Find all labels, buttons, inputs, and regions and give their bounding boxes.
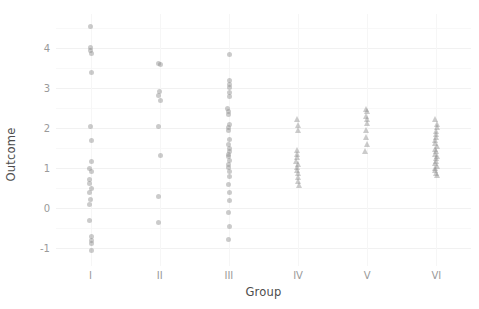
x-axis-tick-label: IV bbox=[278, 270, 318, 281]
data-point bbox=[89, 51, 94, 56]
strip-plot-figure: Outcome 43210-1 IIIIIIIVVVI Group bbox=[0, 0, 479, 309]
data-point bbox=[158, 98, 163, 103]
gridline-minor bbox=[56, 108, 471, 109]
data-point bbox=[434, 172, 440, 178]
data-point bbox=[227, 190, 232, 195]
gridline-minor bbox=[56, 228, 471, 229]
data-point bbox=[156, 124, 161, 129]
y-axis-tick-label: 1 bbox=[20, 163, 50, 174]
data-point bbox=[227, 224, 232, 229]
data-point bbox=[158, 153, 163, 158]
x-axis-tick-label: V bbox=[347, 270, 387, 281]
gridline-major bbox=[56, 168, 471, 169]
gridline-minor bbox=[56, 148, 471, 149]
data-point bbox=[227, 198, 232, 203]
data-point bbox=[158, 62, 163, 67]
x-axis-title: Group bbox=[56, 285, 471, 299]
data-point bbox=[87, 181, 92, 186]
gridline-minor bbox=[56, 28, 471, 29]
data-point bbox=[156, 220, 161, 225]
gridline-vertical bbox=[160, 14, 161, 266]
data-point bbox=[89, 241, 94, 246]
data-point bbox=[88, 124, 93, 129]
y-axis-tick-label: 3 bbox=[20, 83, 50, 94]
data-point bbox=[227, 174, 232, 179]
data-point bbox=[227, 52, 232, 57]
data-point bbox=[88, 24, 93, 29]
y-axis-tick-label: 0 bbox=[20, 203, 50, 214]
data-point bbox=[89, 70, 94, 75]
data-point bbox=[227, 169, 232, 174]
data-point bbox=[226, 112, 231, 117]
data-point bbox=[89, 169, 94, 174]
x-axis-tick-label: II bbox=[140, 270, 180, 281]
data-point bbox=[89, 248, 94, 253]
data-point bbox=[88, 197, 93, 202]
data-point bbox=[363, 127, 369, 133]
gridline-major bbox=[56, 48, 471, 49]
x-axis-tick-label: III bbox=[209, 270, 249, 281]
plot-panel bbox=[56, 14, 471, 266]
data-point bbox=[296, 182, 302, 188]
data-point bbox=[364, 120, 370, 126]
data-point bbox=[87, 202, 92, 207]
data-point bbox=[89, 138, 94, 143]
data-point bbox=[227, 94, 232, 99]
data-point bbox=[364, 141, 370, 147]
gridline-major bbox=[56, 88, 471, 89]
data-point bbox=[226, 237, 231, 242]
data-point bbox=[363, 134, 369, 140]
gridline-vertical bbox=[367, 14, 368, 266]
data-point bbox=[156, 194, 161, 199]
data-point bbox=[89, 159, 94, 164]
y-axis-tick-label: -1 bbox=[20, 243, 50, 254]
data-point bbox=[226, 210, 231, 215]
data-point bbox=[362, 148, 368, 154]
gridline-major bbox=[56, 208, 471, 209]
data-point bbox=[295, 127, 301, 133]
gridline-major bbox=[56, 248, 471, 249]
data-point bbox=[227, 137, 232, 142]
gridline-minor bbox=[56, 188, 471, 189]
gridline-major bbox=[56, 128, 471, 129]
y-axis-tick-label: 2 bbox=[20, 123, 50, 134]
gridline-minor bbox=[56, 68, 471, 69]
gridline-vertical bbox=[298, 14, 299, 266]
data-point bbox=[227, 85, 232, 90]
y-axis-tick-label: 4 bbox=[20, 43, 50, 54]
x-axis-tick-label: I bbox=[71, 270, 111, 281]
data-point bbox=[87, 218, 92, 223]
x-axis-tick-label: VI bbox=[416, 270, 456, 281]
y-axis-tick-labels: 43210-1 bbox=[14, 14, 50, 266]
x-axis-tick-labels: IIIIIIIVVVI bbox=[56, 270, 471, 284]
data-point bbox=[226, 128, 231, 133]
data-point bbox=[226, 182, 231, 187]
